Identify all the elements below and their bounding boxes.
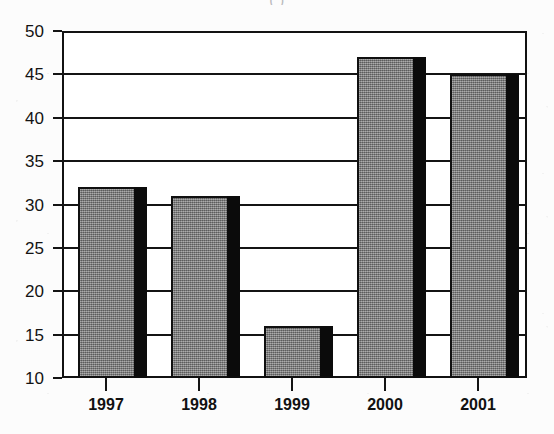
bar-face	[264, 326, 320, 378]
bar	[78, 187, 147, 378]
bar	[450, 74, 519, 378]
y-axis-tick-mark	[53, 73, 62, 75]
x-axis-tick-label: 2000	[340, 397, 430, 413]
y-axis-tick-label: 50	[0, 23, 44, 40]
y-axis-tick-mark	[53, 290, 62, 292]
bar-face	[171, 196, 227, 378]
bar-shadow-edge	[320, 326, 333, 378]
bar-face	[450, 74, 506, 378]
y-axis-tick-label: 15	[0, 327, 44, 344]
y-axis-tick-mark	[53, 117, 62, 119]
x-axis-tick-mark	[291, 378, 293, 391]
y-axis-tick-mark	[53, 204, 62, 206]
y-axis-tick-label: 10	[0, 370, 44, 387]
x-axis-tick-mark	[105, 378, 107, 391]
y-axis-tick-label: 20	[0, 283, 44, 300]
bar-shadow-edge	[227, 196, 240, 378]
x-axis-tick-mark	[384, 378, 386, 391]
x-axis-tick-label: 1997	[61, 397, 151, 413]
x-axis-tick-label: 1999	[247, 397, 337, 413]
y-axis-tick-mark	[53, 160, 62, 162]
y-axis-tick-label: 30	[0, 197, 44, 214]
bar-face	[78, 187, 134, 378]
y-axis-tick-label: 40	[0, 110, 44, 127]
bar-shadow-edge	[134, 187, 147, 378]
y-axis-tick-mark	[53, 377, 62, 379]
bar-shadow-edge	[506, 74, 519, 378]
chart-page: ( ) 504540353025201510 19971998199920002…	[0, 0, 554, 434]
bar-chart: 504540353025201510 19971998199920002001	[0, 0, 554, 434]
bar-face	[357, 57, 413, 378]
bar	[264, 326, 333, 378]
x-axis-tick-label: 2001	[433, 397, 523, 413]
x-axis-tick-mark	[198, 378, 200, 391]
x-axis-tick-label: 1998	[154, 397, 244, 413]
y-axis-tick-mark	[53, 334, 62, 336]
bar	[357, 57, 426, 378]
y-axis-tick-label: 45	[0, 66, 44, 83]
x-axis-tick-mark	[477, 378, 479, 391]
y-axis-tick-label: 35	[0, 153, 44, 170]
y-axis-tick-label: 25	[0, 240, 44, 257]
bar	[171, 196, 240, 378]
bar-shadow-edge	[413, 57, 426, 378]
y-axis-tick-mark	[53, 247, 62, 249]
y-axis-tick-mark	[53, 30, 62, 32]
